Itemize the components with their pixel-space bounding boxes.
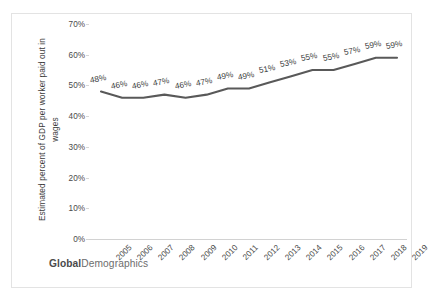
chart-card: Estimated percent of GDP per worker paid… bbox=[11, 13, 412, 288]
y-axis-title-line-1: Estimated percent of GDP per worker paid… bbox=[36, 32, 49, 228]
x-tick-label: 2007 bbox=[157, 243, 176, 262]
brand-regular: Demographics bbox=[81, 258, 148, 269]
x-axis-baseline bbox=[89, 239, 407, 240]
y-tick-label: 30% bbox=[69, 142, 85, 151]
brand-logo: GlobalDemographics bbox=[49, 258, 148, 269]
x-tick-label: 2013 bbox=[283, 243, 302, 262]
y-tick-label: 0% bbox=[73, 235, 85, 244]
y-tick-label: 70% bbox=[69, 20, 85, 29]
line-series bbox=[89, 24, 401, 239]
x-tick-label: 2016 bbox=[347, 243, 366, 262]
x-tick-label: 2015 bbox=[326, 243, 345, 262]
y-tick-label: 50% bbox=[69, 81, 85, 90]
x-tick-label: 2010 bbox=[220, 243, 239, 262]
brand-bold: Global bbox=[49, 258, 81, 269]
plot-area: 0%10%20%30%40%50%60%70% 48%46%46%47%46%4… bbox=[89, 24, 401, 239]
y-axis-title: Estimated percent of GDP per worker paid… bbox=[36, 32, 61, 228]
y-tick-label: 40% bbox=[69, 112, 85, 121]
y-tick-label: 60% bbox=[69, 50, 85, 59]
y-axis-title-line-2: wages bbox=[48, 32, 61, 228]
x-tick-label: 2017 bbox=[368, 243, 387, 262]
x-tick-label: 2008 bbox=[178, 243, 197, 262]
x-tick-label: 2012 bbox=[262, 243, 281, 262]
x-tick-label: 2018 bbox=[389, 243, 408, 262]
y-tick-label: 20% bbox=[69, 173, 85, 182]
y-tick-label: 10% bbox=[69, 204, 85, 213]
x-tick-label: 2014 bbox=[305, 243, 324, 262]
x-tick-label: 2019 bbox=[410, 243, 428, 262]
x-tick-label: 2011 bbox=[241, 243, 260, 262]
x-tick-label: 2009 bbox=[199, 243, 218, 262]
